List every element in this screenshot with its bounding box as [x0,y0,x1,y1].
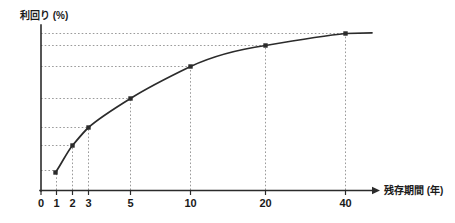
vertical-guide-lines [57,33,346,190]
data-point-3 [86,125,90,129]
x-axis-tick-labels: 0 1 2 3 5 10 20 40 [38,197,352,209]
x-tick-label-1: 1 [53,197,59,209]
x-tick-label-10: 10 [184,197,196,209]
yield-curve-chart: 0 1 2 3 5 10 20 40 利回り (%) 残存期間 (年) [0,0,455,223]
x-tick-label-0: 0 [38,197,44,209]
x-axis-title: 残存期間 (年) [384,184,443,196]
x-axis-arrow-icon [372,187,380,194]
data-point-20 [263,43,267,47]
x-tick-label-40: 40 [339,197,351,209]
data-point-10 [188,64,192,68]
data-point-2 [70,143,74,147]
yield-curve-line [56,33,373,173]
chart-canvas: 0 1 2 3 5 10 20 40 利回り (%) 残存期間 (年) [0,0,455,223]
y-axis-title: 利回り (%) [20,9,68,21]
data-point-markers [53,31,347,174]
horizontal-guide-lines [41,34,345,171]
data-point-5 [128,96,132,100]
x-tick-label-3: 3 [85,197,91,209]
data-point-40 [343,31,347,35]
data-point-1 [53,170,57,174]
x-tick-label-5: 5 [127,197,133,209]
x-tick-label-2: 2 [69,197,75,209]
x-tick-label-20: 20 [259,197,271,209]
